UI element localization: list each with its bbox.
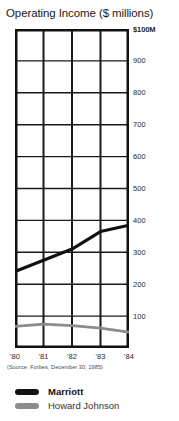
chart-legend: Marriott Howard Johnson (15, 385, 175, 413)
source-note: (Source: Forbes, December 30, 1985) (7, 364, 103, 370)
operating-income-line-chart: Operating Income ($ millions) 1002003004… (0, 0, 179, 421)
y-axis-tick-label: $100M (133, 25, 155, 34)
legend-label-marriott: Marriott (48, 387, 83, 397)
legend-label-howard-johnson: Howard Johnson (48, 401, 119, 411)
y-axis-tick-label: 500 (133, 184, 146, 193)
chart-title: Operating Income ($ millions) (6, 7, 153, 19)
x-axis-tick-label: '83 (96, 352, 106, 361)
y-axis-tick-label: 800 (133, 88, 146, 97)
y-axis-tick-label: 100 (133, 312, 146, 321)
x-axis-tick-label: '81 (39, 352, 49, 361)
legend-item-marriott: Marriott (15, 385, 175, 399)
y-axis-tick-label: 700 (133, 120, 146, 129)
y-axis-tick-label: 900 (133, 56, 146, 65)
x-axis-tick-label: '84 (124, 352, 134, 361)
legend-swatch-marriott (15, 389, 39, 395)
x-axis-tick-label: '80 (10, 352, 20, 361)
plot-area (15, 29, 129, 348)
legend-item-howard-johnson: Howard Johnson (15, 399, 175, 413)
y-axis-tick-label: 600 (133, 152, 146, 161)
y-axis-tick-label: 300 (133, 248, 146, 257)
y-axis-tick-label: 400 (133, 216, 146, 225)
plot-svg (15, 29, 129, 348)
y-axis-tick-label: 200 (133, 280, 146, 289)
legend-swatch-howard-johnson (15, 403, 39, 409)
x-axis-tick-label: '82 (67, 352, 77, 361)
